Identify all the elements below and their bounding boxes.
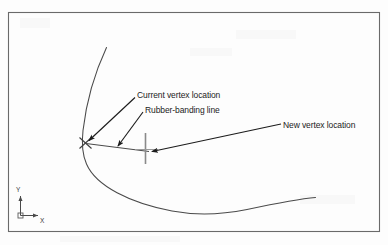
ucs-y-axis-label: Y	[16, 186, 20, 193]
cad-diagram-screenshot: Current vertex location Rubber-banding l…	[0, 0, 388, 245]
crosshair-cursor	[135, 133, 158, 164]
leader-rubber-banding	[118, 112, 143, 146]
ucs-axis-icon	[18, 196, 38, 218]
annotation-label-current-vertex: Current vertex location	[137, 90, 220, 100]
polyline-spline-curve	[82, 48, 315, 214]
annotation-label-rubber-banding: Rubber-banding line	[145, 105, 220, 115]
leader-new-vertex	[152, 124, 281, 152]
ucs-x-axis-label: X	[40, 217, 44, 224]
leader-current-vertex	[89, 98, 135, 141]
annotation-label-new-vertex: New vertex location	[283, 120, 355, 130]
rubber-banding-line	[86, 144, 149, 152]
